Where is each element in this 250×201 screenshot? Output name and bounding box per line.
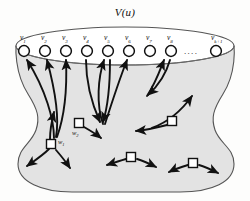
vertex-label-v6: v6 bbox=[125, 34, 131, 44]
node-square-w1[interactable] bbox=[47, 140, 56, 149]
vertex-circle-v5[interactable] bbox=[103, 46, 114, 57]
figure-title: V(u) bbox=[0, 6, 250, 18]
vertex-label-v8: v8 bbox=[167, 34, 173, 44]
vertex-circle-v8[interactable] bbox=[166, 46, 177, 57]
vertex-label-v7: v7 bbox=[146, 34, 152, 44]
vertex-circle-v1[interactable] bbox=[19, 46, 30, 57]
vertex-label-v4: v4 bbox=[83, 34, 89, 44]
vertex-circle-vk1[interactable] bbox=[211, 46, 222, 57]
vertex-label-v2: v2 bbox=[41, 34, 47, 44]
node-label-w1: w1 bbox=[58, 139, 65, 148]
figure-canvas: V(u) v1 v2 v3 v4 v5 v6 v7 v8 vk+1 .... w… bbox=[0, 0, 250, 201]
vertex-label-vk1: vk+1 bbox=[211, 34, 222, 44]
node-label-w2: w2 bbox=[72, 130, 79, 139]
vertex-label-v3: v3 bbox=[62, 34, 68, 44]
vertex-label-v1: v1 bbox=[20, 34, 26, 44]
vertex-circle-v3[interactable] bbox=[61, 46, 72, 57]
node-square-w2[interactable] bbox=[75, 119, 84, 128]
figure-svg bbox=[0, 0, 250, 201]
node-square-w3[interactable] bbox=[168, 117, 177, 126]
vertex-ellipsis: .... bbox=[184, 46, 198, 56]
vertex-label-v5: v5 bbox=[104, 34, 110, 44]
node-square-w4[interactable] bbox=[127, 153, 136, 162]
vertex-circle-v7[interactable] bbox=[145, 46, 156, 57]
vertex-circle-v6[interactable] bbox=[124, 46, 135, 57]
vertex-circle-v4[interactable] bbox=[82, 46, 93, 57]
node-square-w5[interactable] bbox=[189, 159, 198, 168]
vertex-circle-v2[interactable] bbox=[40, 46, 51, 57]
